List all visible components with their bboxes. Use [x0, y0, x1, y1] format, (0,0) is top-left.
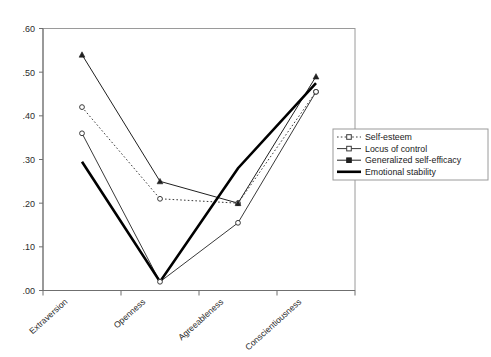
y-tick-label: .40 [22, 111, 35, 121]
y-tick-label: .10 [22, 242, 35, 252]
y-tick-label: .50 [22, 68, 35, 78]
chart-legend: Self-esteemLocus of controlGeneralized s… [333, 129, 488, 180]
chart-canvas: .00.10.20.30.40.50.60 ExtraversionOpenne… [0, 0, 491, 357]
legend-marker-0 [347, 135, 352, 140]
legend-label-0: Self-esteem [365, 132, 412, 142]
legend-label-1: Locus of control [365, 144, 427, 154]
data-point-marker [236, 220, 241, 225]
legend-marker-1 [347, 146, 352, 151]
data-point-marker [314, 89, 319, 94]
data-point-marker [80, 105, 85, 110]
y-tick-label: .30 [22, 155, 35, 165]
legend-label-2: Generalized self-efficacy [365, 155, 462, 165]
legend-label-3: Emotional stability [365, 167, 436, 177]
legend-marker-2 [347, 158, 352, 163]
line-chart-figure: .00.10.20.30.40.50.60 ExtraversionOpenne… [0, 0, 491, 357]
y-tick-label: .00 [22, 286, 35, 296]
data-point-marker [158, 279, 163, 284]
data-point-marker [80, 131, 85, 136]
y-tick-label: .20 [22, 199, 35, 209]
data-point-marker [158, 196, 163, 201]
y-tick-label: .60 [22, 24, 35, 34]
